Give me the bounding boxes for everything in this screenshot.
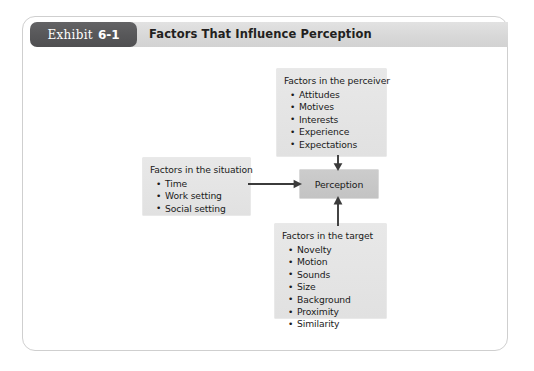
arrow-right-icon: [248, 176, 302, 192]
exhibit-number-badge: Exhibit 6-1: [30, 22, 137, 47]
node-box-perception: Perception: [300, 170, 378, 198]
list-item: Time: [165, 178, 250, 190]
list-item: Expectations: [299, 139, 386, 151]
list-item: Social setting: [165, 203, 250, 215]
node-box-situation: Factors in the situation Time Work setti…: [143, 158, 250, 215]
list-item: Novelty: [297, 244, 386, 256]
exhibit-badge-inner: Exhibit 6-1: [30, 22, 137, 47]
list-item: Interests: [299, 114, 386, 126]
list-item: Attitudes: [299, 89, 386, 101]
list-item: Experience: [299, 126, 386, 138]
exhibit-header: Factors That Influence Perception Exhibi…: [30, 22, 508, 47]
list-item: Size: [297, 281, 386, 293]
node-box-perceiver: Factors in the perceiver Attitudes Motiv…: [277, 69, 386, 156]
list-item: Sounds: [297, 269, 386, 281]
list-item: Background: [297, 294, 386, 306]
list-item: Proximity: [297, 306, 386, 318]
node-heading-target: Factors in the target: [282, 230, 386, 241]
list-item: Work setting: [165, 190, 250, 202]
node-list-target: Novelty Motion Sounds Size Background Pr…: [282, 244, 386, 331]
exhibit-title-bar: Factors That Influence Perception: [126, 22, 508, 47]
perception-label: Perception: [315, 179, 364, 190]
node-list-situation: Time Work setting Social setting: [150, 178, 250, 215]
node-heading-perceiver: Factors in the perceiver: [284, 75, 386, 86]
node-list-perceiver: Attitudes Motives Interests Experience E…: [284, 89, 386, 151]
node-box-target: Factors in the target Novelty Motion Sou…: [275, 224, 386, 318]
arrow-down-icon: [330, 155, 346, 172]
arrow-up-icon: [330, 196, 346, 226]
list-item: Similarity: [297, 318, 386, 330]
exhibit-badge-number: 6-1: [98, 28, 120, 42]
exhibit-badge-word: Exhibit: [47, 28, 93, 42]
exhibit-title: Factors That Influence Perception: [149, 27, 372, 41]
node-heading-situation: Factors in the situation: [150, 164, 250, 175]
list-item: Motion: [297, 256, 386, 268]
list-item: Motives: [299, 101, 386, 113]
